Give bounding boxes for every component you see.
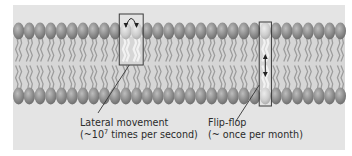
inner-lipid-head: [270, 88, 281, 105]
inner-lipid-head: [67, 88, 78, 105]
outer-lipid-head: [24, 23, 35, 40]
outer-lipid-head: [56, 23, 67, 40]
inner-lipid-head: [217, 88, 228, 105]
outer-lipid-head: [174, 23, 185, 40]
lipid-tails: [13, 37, 345, 90]
inner-lipid-head: [77, 88, 88, 105]
inner-lipid-head: [238, 88, 249, 105]
outer-lipid-head: [152, 23, 163, 40]
outer-lipid-head: [67, 23, 78, 40]
outer-lipid-head: [228, 23, 239, 40]
lateral-label-line2: (~107 times per second): [80, 128, 198, 140]
inner-lipid-head: [335, 88, 346, 105]
inner-lipid-head: [249, 88, 260, 105]
lateral-rate-prefix: (~10: [80, 129, 104, 140]
inner-lipid-head: [313, 88, 324, 105]
outer-lipid-head: [281, 23, 292, 40]
outer-lipid-head: [206, 23, 217, 40]
inner-lipid-head: [324, 88, 335, 105]
inner-lipid-head: [260, 88, 271, 105]
inner-lipid-head: [292, 88, 303, 105]
outer-lipid-head: [34, 23, 45, 40]
inner-lipid-head: [34, 88, 45, 105]
flipflop-label-line2: (~ once per month): [208, 129, 303, 140]
outer-lipid-head: [195, 23, 206, 40]
lipid-bilayer-diagram: Lateral movement (~107 times per second)…: [0, 0, 352, 156]
outer-lipid-head: [270, 23, 281, 40]
inner-lipid-head: [99, 88, 110, 105]
inner-lipid-head: [174, 88, 185, 105]
inner-lipid-head: [13, 88, 24, 105]
inner-lipid-head: [185, 88, 196, 105]
inner-lipid-head: [56, 88, 67, 105]
outer-lipid-head: [260, 23, 271, 40]
outer-lipid-head: [13, 23, 24, 40]
inner-lipid-head: [88, 88, 99, 105]
inner-lipid-head: [45, 88, 56, 105]
outer-lipid-head: [45, 23, 56, 40]
hydrophobic-core: [13, 37, 345, 90]
inner-lipid-head: [142, 88, 153, 105]
outer-lipid-head: [163, 23, 174, 40]
outer-lipid-head: [324, 23, 335, 40]
outer-lipid-head: [217, 23, 228, 40]
outer-lipid-head: [99, 23, 110, 40]
outer-lipid-head: [238, 23, 249, 40]
inner-lipid-head: [24, 88, 35, 105]
inner-lipid-head: [228, 88, 239, 105]
outer-lipid-head: [77, 23, 88, 40]
inner-lipid-head: [303, 88, 314, 105]
lateral-rate-suffix: times per second): [108, 129, 198, 140]
inner-lipid-head: [281, 88, 292, 105]
inner-lipid-head: [152, 88, 163, 105]
outer-lipid-head: [303, 23, 314, 40]
outer-lipid-head: [88, 23, 99, 40]
outer-lipid-head: [335, 23, 346, 40]
outer-lipid-head: [249, 23, 260, 40]
lateral-label-line1: Lateral movement: [80, 117, 169, 128]
inner-lipid-head: [120, 88, 131, 105]
outer-lipid-head: [292, 23, 303, 40]
inner-lipid-head: [110, 88, 121, 105]
inner-lipid-head: [206, 88, 217, 105]
inner-lipid-head: [131, 88, 142, 105]
flipflop-label-line1: Flip-flop: [208, 117, 246, 128]
inner-lipid-head: [195, 88, 206, 105]
outer-lipid-head: [313, 23, 324, 40]
outer-lipid-head: [185, 23, 196, 40]
inner-lipid-head: [163, 88, 174, 105]
